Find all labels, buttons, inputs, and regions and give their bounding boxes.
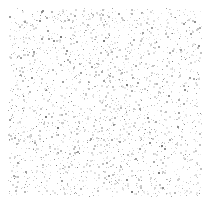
noise-speck	[186, 58, 187, 59]
noise-speck	[68, 157, 69, 158]
noise-speck	[42, 164, 44, 166]
noise-speck	[39, 76, 40, 77]
noise-speck	[103, 158, 104, 159]
noise-speck	[165, 33, 167, 35]
noise-speck	[36, 113, 37, 114]
noise-speck	[38, 119, 39, 120]
noise-speck	[32, 172, 33, 173]
noise-speck	[70, 43, 72, 45]
noise-speck	[141, 145, 143, 147]
noise-speck	[18, 47, 19, 48]
noise-speck	[46, 130, 47, 131]
noise-speck	[150, 166, 151, 167]
noise-speck	[192, 30, 193, 31]
noise-speck	[128, 34, 129, 35]
noise-speck	[112, 54, 113, 55]
noise-speck	[73, 28, 74, 29]
noise-speck	[57, 120, 58, 121]
noise-speck	[109, 26, 110, 27]
noise-speck	[98, 60, 99, 61]
noise-speck	[199, 77, 200, 78]
noise-speck	[115, 80, 116, 81]
noise-speck	[45, 116, 47, 118]
noise-speck	[70, 187, 71, 188]
noise-speck	[113, 48, 114, 49]
noise-speck	[78, 145, 79, 146]
noise-speck	[151, 75, 152, 76]
noise-speck	[138, 163, 139, 164]
noise-speck	[165, 170, 166, 171]
noise-speck	[133, 86, 134, 87]
noise-speck	[74, 159, 75, 160]
noise-speck	[156, 181, 157, 182]
noise-speck	[76, 19, 77, 20]
noise-speck	[101, 130, 103, 132]
noise-speck	[108, 167, 109, 168]
noise-speck	[147, 117, 149, 119]
noise-speck	[198, 115, 199, 116]
noise-speck	[168, 12, 169, 13]
noise-speck	[156, 154, 158, 156]
noise-speck	[97, 67, 98, 68]
noise-speck	[147, 16, 148, 17]
noise-speck	[45, 154, 47, 156]
noise-speck	[138, 152, 139, 153]
noise-speck	[89, 25, 90, 26]
noise-speck	[156, 98, 157, 99]
noise-speck	[111, 178, 112, 179]
noise-speck	[161, 13, 162, 14]
noise-speck	[62, 13, 63, 14]
noise-speck	[144, 193, 145, 194]
noise-speck	[23, 172, 24, 173]
noise-speck	[122, 125, 123, 126]
noise-speck	[196, 184, 197, 185]
noise-speck	[15, 190, 17, 192]
noise-speck	[27, 43, 28, 44]
noise-speck	[74, 54, 75, 55]
noise-speck	[199, 57, 201, 59]
noise-speck	[71, 73, 72, 74]
noise-speck	[78, 162, 79, 163]
noise-speck	[45, 65, 46, 66]
noise-speck	[25, 184, 26, 185]
noise-speck	[162, 61, 163, 62]
noise-speck	[30, 39, 31, 40]
noise-speck	[118, 37, 119, 38]
noise-speck	[197, 102, 198, 103]
noise-speck	[151, 183, 152, 184]
noise-speck	[112, 20, 113, 21]
noise-speck	[178, 187, 179, 188]
noise-speck	[183, 12, 184, 13]
noise-speck	[197, 182, 199, 184]
noise-speck	[192, 100, 193, 101]
noise-speck	[177, 44, 178, 45]
noise-speck	[179, 77, 180, 78]
noise-speck	[179, 49, 180, 50]
noise-speck	[125, 56, 126, 57]
noise-speck	[52, 17, 53, 18]
noise-speck	[111, 103, 112, 104]
noise-speck	[48, 71, 49, 72]
noise-speck	[140, 185, 142, 187]
noise-speck	[24, 76, 25, 77]
noise-speck	[62, 141, 63, 142]
noise-speck	[40, 171, 41, 172]
noise-speck	[23, 41, 25, 43]
noise-speck	[193, 71, 194, 72]
noise-speck	[108, 65, 109, 66]
noise-speck	[168, 142, 169, 143]
noise-speck	[190, 33, 192, 35]
noise-speck	[39, 130, 41, 132]
noise-speck	[33, 149, 34, 150]
noise-speck	[175, 153, 176, 154]
noise-speck	[71, 133, 72, 134]
noise-speck	[21, 168, 22, 169]
noise-speck	[156, 130, 157, 131]
noise-speck	[124, 97, 125, 98]
noise-speck	[65, 113, 67, 115]
noise-speck	[156, 159, 157, 160]
noise-speck	[155, 193, 156, 194]
noise-speck	[48, 164, 49, 165]
noise-speck	[177, 10, 178, 11]
noise-speck	[15, 187, 16, 188]
